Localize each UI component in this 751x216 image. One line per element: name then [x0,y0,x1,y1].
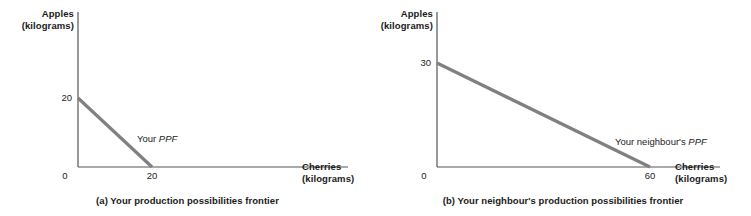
panel-caption-a: (a) Your production possibilities fronti… [0,195,375,207]
x-axis-title-a: Cherries (kilograms) [302,161,354,184]
y-tick-label-a: 20 [48,92,72,103]
x-tick-label-b: 60 [639,170,661,181]
origin-label-a: 0 [58,170,72,181]
ppf-line-b [437,63,650,167]
x-axis-title-line1-b: Cherries [675,161,727,173]
ppf-annotation-italic-b: PPF [688,136,706,147]
x-tick-label-a: 20 [141,170,163,181]
y-axis-title-line2-a: (kilograms) [22,20,74,32]
ppf-annotation-prefix-b: Your neighbour's [615,136,688,147]
ppf-figure: Apples (kilograms) Cherries (kilograms) … [0,0,751,216]
ppf-annotation-a: Your PPF [137,133,177,144]
ppf-annotation-b: Your neighbour's PPF [615,136,707,147]
origin-label-b: 0 [417,170,431,181]
x-axis-title-line1-a: Cherries [302,161,354,173]
chart-panel-a: Apples (kilograms) Cherries (kilograms) … [0,0,375,216]
x-axis-title-line2-b: (kilograms) [675,173,727,185]
panel-caption-b: (b) Your neighbour's production possibil… [375,195,751,207]
y-axis-title-b: Apples (kilograms) [381,8,433,31]
y-axis-title-a: Apples (kilograms) [22,8,74,31]
ppf-annotation-italic-a: PPF [159,133,177,144]
y-tick-label-b: 30 [407,57,431,68]
x-axis-title-line2-a: (kilograms) [302,173,354,185]
chart-panel-b: Apples (kilograms) Cherries (kilograms) … [375,0,751,216]
y-axis-title-line1-b: Apples [381,8,433,20]
ppf-annotation-prefix-a: Your [137,133,159,144]
x-axis-title-b: Cherries (kilograms) [675,161,727,184]
y-axis-title-line1-a: Apples [22,8,74,20]
y-axis-title-line2-b: (kilograms) [381,20,433,32]
